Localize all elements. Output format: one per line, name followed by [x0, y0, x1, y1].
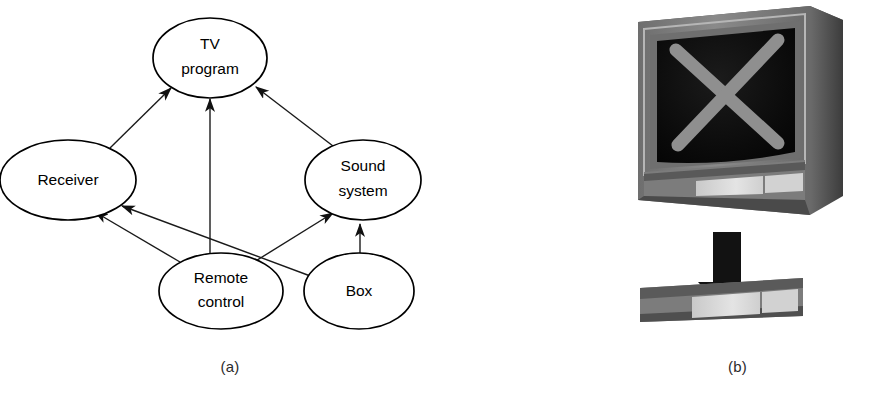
- node-receiver[interactable]: Receiver: [0, 140, 136, 220]
- detached-control-panel[interactable]: [640, 278, 803, 322]
- tv-cabinet-side: [810, 6, 843, 215]
- edge-receiver-to-tv-program: [110, 88, 171, 148]
- edge-remote-control-to-receiver: [95, 212, 180, 262]
- dependency-graph: TV program Receiver Sound system Remote …: [0, 0, 460, 350]
- node-remote-control[interactable]: Remote control: [159, 253, 283, 329]
- node-tv-program-shape: [153, 18, 267, 98]
- edge-remote-control-to-sound-system: [246, 213, 333, 267]
- node-sound-system-label-line1: Sound: [341, 157, 386, 174]
- node-sound-system-shape: [305, 140, 421, 220]
- node-tv-program[interactable]: TV program: [153, 18, 267, 98]
- tv-panel-button-right[interactable]: [765, 173, 803, 193]
- node-remote-control-label-line1: Remote: [194, 269, 248, 286]
- caption-a: (a): [0, 358, 460, 375]
- caption-b: (b): [600, 358, 875, 375]
- node-receiver-label: Receiver: [37, 171, 98, 188]
- edge-sound-system-to-tv-program: [256, 87, 333, 146]
- figure-container: TV program Receiver Sound system Remote …: [0, 0, 875, 401]
- node-tv-program-label-line2: program: [181, 60, 239, 77]
- node-sound-system-label-line2: system: [338, 182, 387, 199]
- node-box-label: Box: [346, 282, 373, 299]
- television-illustration: [600, 0, 875, 350]
- node-remote-control-shape: [159, 253, 283, 329]
- node-tv-program-label-line1: TV: [200, 35, 220, 52]
- node-remote-control-label-line2: control: [198, 293, 245, 310]
- node-box[interactable]: Box: [304, 253, 414, 329]
- detached-panel-button-right[interactable]: [762, 289, 798, 313]
- panel-a-diagram: TV program Receiver Sound system Remote …: [0, 0, 460, 401]
- panel-b-illustration: (b): [600, 0, 875, 401]
- node-sound-system[interactable]: Sound system: [305, 140, 421, 220]
